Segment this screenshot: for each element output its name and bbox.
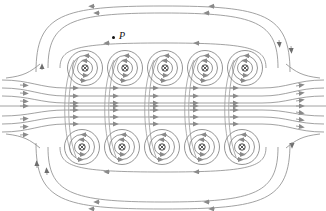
current-into-page-symbols [79,65,248,150]
conductor-symbol-top-5 [242,65,248,71]
field-line-canvas [0,0,326,211]
conductor-symbol-bottom-5 [239,144,245,150]
magnetic-field-diagram: P [0,0,326,211]
conductor-symbol-top-4 [202,65,208,71]
conductor-symbol-bottom-1 [79,144,85,150]
conductor-symbol-bottom-2 [119,144,125,150]
interior-field-lines [0,64,326,148]
point-p-label: P [119,31,125,41]
conductor-symbol-bottom-4 [199,144,205,150]
conductor-symbol-top-3 [162,65,168,71]
intermediate-field-loops [60,43,266,172]
conductor-symbol-top-2 [122,65,128,71]
point-p-dot [112,36,115,39]
outer-return-loops [36,6,292,209]
conductor-symbol-bottom-3 [159,144,165,150]
conductor-symbol-top-1 [82,65,88,71]
